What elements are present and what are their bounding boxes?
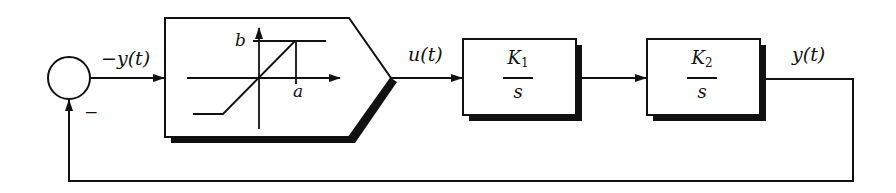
feedback-sign-label: − [84,104,98,121]
error-signal-label: −y(t) [101,49,150,68]
control-signal-label: u(t) [408,45,443,64]
k2-numerator: K2 [689,48,714,73]
k1-fraction-bar [503,77,533,79]
block-diagram [0,0,896,193]
k2-transfer-function: K2 s [687,48,717,101]
k1-denominator: s [513,83,522,101]
sat-b-label: b [235,32,246,49]
sat-a-label: a [293,83,303,100]
summing-junction [48,57,90,99]
k2-fraction-bar [687,77,717,79]
k2-denominator: s [697,83,706,101]
k1-transfer-function: K1 s [503,48,533,101]
k1-numerator: K1 [505,48,530,73]
output-signal-label: y(t) [792,45,825,64]
